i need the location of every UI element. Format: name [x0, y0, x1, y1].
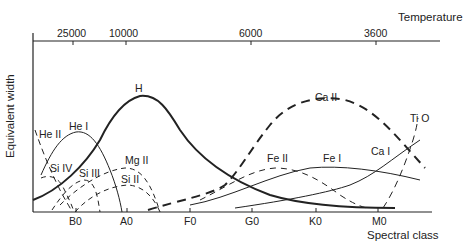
label-FeI: Fe I [323, 153, 341, 164]
tick-6000: 6000 [239, 28, 262, 39]
bottom-axis-title: Spectral class [367, 230, 439, 242]
label-CaII: Ca II [315, 92, 337, 103]
label-SiII: Si II [121, 174, 139, 185]
y-axis-title: Equivalent width [4, 74, 16, 158]
curve-MgII [60, 168, 160, 212]
tick-A0: A0 [120, 216, 133, 227]
label-SiIII: Si III [79, 168, 100, 179]
curve-SiII [75, 185, 160, 212]
tick-10000: 10000 [109, 28, 138, 39]
tick-3600: 3600 [364, 28, 387, 39]
tick-F0: F0 [184, 216, 196, 227]
tick-M0: M0 [372, 216, 387, 227]
tick-G0: G0 [245, 216, 259, 227]
tick-25000: 25000 [57, 28, 86, 39]
label-CaI: Ca I [371, 146, 390, 157]
label-FeII: Fe II [267, 153, 288, 164]
label-H: H [135, 83, 143, 94]
tick-B0: B0 [69, 216, 82, 227]
tick-K0: K0 [309, 216, 322, 227]
top-axis-title: Temperature [398, 12, 463, 24]
label-TiO: Ti O [410, 113, 429, 124]
label-HeII: He II [39, 129, 61, 140]
label-SiIV: Si IV [50, 163, 72, 174]
label-MgII: Mg II [125, 155, 148, 166]
label-HeI: He I [69, 121, 88, 132]
